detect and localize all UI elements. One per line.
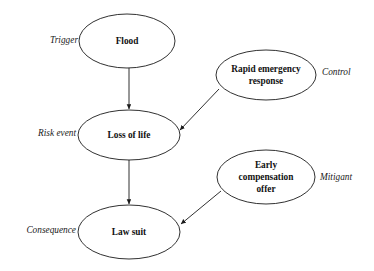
edge-response-to-loss-of-life	[180, 89, 219, 130]
label-consequence: Consequence	[26, 225, 76, 235]
node-rapid-emergency-response-shape[interactable]	[216, 50, 316, 100]
edge-compensation-to-law-suit	[181, 191, 221, 224]
node-law-suit[interactable]: Law suit	[78, 205, 180, 259]
node-loss-of-life-label: Loss of life	[108, 130, 151, 140]
risk-bowtie-diagram: Flood Rapid emergency response Loss of l…	[0, 0, 374, 271]
label-risk-event: Risk event	[37, 128, 76, 138]
label-trigger: Trigger	[50, 35, 78, 45]
node-rapid-emergency-response-label-line2: response	[249, 76, 283, 86]
node-rapid-emergency-response-label-line1: Rapid emergency	[231, 64, 301, 74]
label-mitigant: Mitigant	[319, 172, 352, 182]
node-early-compensation-offer-label-line2: compensation	[239, 172, 295, 182]
node-early-compensation-offer-label-line1: Early	[255, 160, 278, 170]
node-loss-of-life[interactable]: Loss of life	[78, 110, 180, 160]
node-flood[interactable]: Flood	[79, 14, 175, 68]
diagram-canvas: Flood Rapid emergency response Loss of l…	[0, 0, 374, 271]
node-rapid-emergency-response[interactable]: Rapid emergency response	[216, 50, 316, 100]
node-early-compensation-offer[interactable]: Early compensation offer	[217, 150, 315, 204]
node-early-compensation-offer-label-line3: offer	[256, 184, 275, 194]
node-law-suit-label: Law suit	[112, 227, 147, 237]
label-control: Control	[322, 67, 351, 77]
node-flood-label: Flood	[116, 36, 140, 46]
